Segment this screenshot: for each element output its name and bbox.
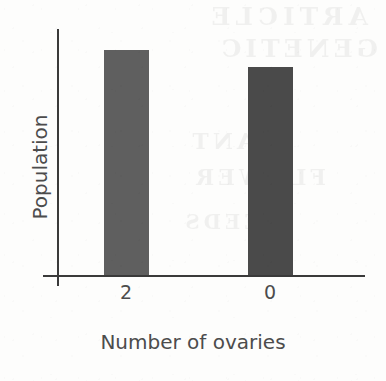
- x-axis-title: Number of ovaries: [0, 330, 386, 354]
- x-axis-line: [43, 275, 365, 277]
- bar-category-2-ovaries: [104, 50, 149, 275]
- plot-area: 2 0 Population Number of ovaries: [0, 0, 386, 381]
- x-tick-label-1: 0: [247, 281, 293, 303]
- x-tick-label-0: 2: [103, 281, 149, 303]
- bar-chart-figure: ARTICLE GENETIC PLANT FLOWER SEEDS 2 0 P…: [0, 0, 386, 381]
- y-axis-title: Population: [28, 105, 52, 229]
- bar-category-0-ovaries: [248, 67, 293, 275]
- y-axis-line: [57, 29, 59, 286]
